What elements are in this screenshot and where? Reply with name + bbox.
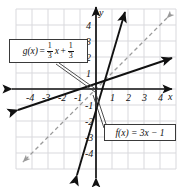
g-label-slope-fraction: 1 3 bbox=[47, 42, 53, 60]
g-slope-denominator: 3 bbox=[47, 51, 53, 61]
x-tick--1: -1 bbox=[74, 93, 82, 103]
g-function-label: g(x) = 1 3 x + 1 3 bbox=[9, 39, 88, 63]
y-tick-4: 4 bbox=[86, 21, 91, 31]
y-axis-label: y bbox=[99, 8, 103, 18]
g-slope-variable: x bbox=[55, 46, 59, 56]
x-tick-3: 3 bbox=[142, 93, 147, 103]
f-function-label: f(x) = 3x − 1 bbox=[104, 124, 176, 141]
y-tick-1: 1 bbox=[86, 69, 91, 79]
y-tick--1: -1 bbox=[85, 101, 93, 111]
g-label-intercept-fraction: 1 3 bbox=[68, 42, 74, 60]
g-label-plus: + bbox=[61, 46, 66, 56]
y-tick--3: -3 bbox=[85, 133, 93, 143]
x-tick-1: 1 bbox=[110, 93, 115, 103]
y-tick--4: -4 bbox=[85, 149, 93, 159]
x-tick--4: -4 bbox=[26, 93, 34, 103]
y-tick--2: -2 bbox=[85, 117, 93, 127]
g-slope-numerator: 1 bbox=[47, 42, 53, 51]
x-tick--3: -3 bbox=[42, 93, 50, 103]
x-tick--2: -2 bbox=[58, 93, 66, 103]
x-axis-label: x bbox=[168, 92, 172, 102]
x-tick-4: 4 bbox=[158, 93, 163, 103]
g-label-name: g(x) bbox=[23, 46, 38, 56]
x-tick-2: 2 bbox=[126, 93, 131, 103]
f-label-text: f(x) = 3x − 1 bbox=[115, 128, 164, 138]
g-intercept-numerator: 1 bbox=[68, 42, 74, 51]
g-label-equals: = bbox=[39, 46, 44, 56]
graph-figure: -4 -3 -2 -1 1 2 3 4 4 3 2 1 -1 -2 -3 -4 … bbox=[0, 0, 184, 187]
g-intercept-denominator: 3 bbox=[68, 51, 74, 61]
